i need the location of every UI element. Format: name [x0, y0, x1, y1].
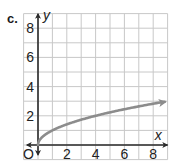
- x-tick-label: 8: [149, 146, 157, 162]
- y-tick-label: 4: [26, 79, 34, 95]
- origin-label: O: [23, 146, 34, 162]
- x-tick-label: 2: [63, 146, 71, 162]
- y-tick-label: 6: [26, 49, 34, 65]
- grid-lines: [24, 14, 168, 160]
- x-tick-label: 6: [121, 146, 129, 162]
- graph: 24682468Oxy: [0, 0, 176, 167]
- x-tick-label: 4: [92, 146, 100, 162]
- y-tick-label: 8: [26, 20, 34, 36]
- y-tick-label: 2: [26, 108, 34, 124]
- x-axis-label: x: [154, 127, 163, 143]
- curve-sqrt-x: [38, 98, 167, 145]
- curve-line: [38, 102, 165, 145]
- y-axis-label: y: [42, 7, 51, 23]
- tick-labels: 24682468Oxy: [23, 7, 163, 162]
